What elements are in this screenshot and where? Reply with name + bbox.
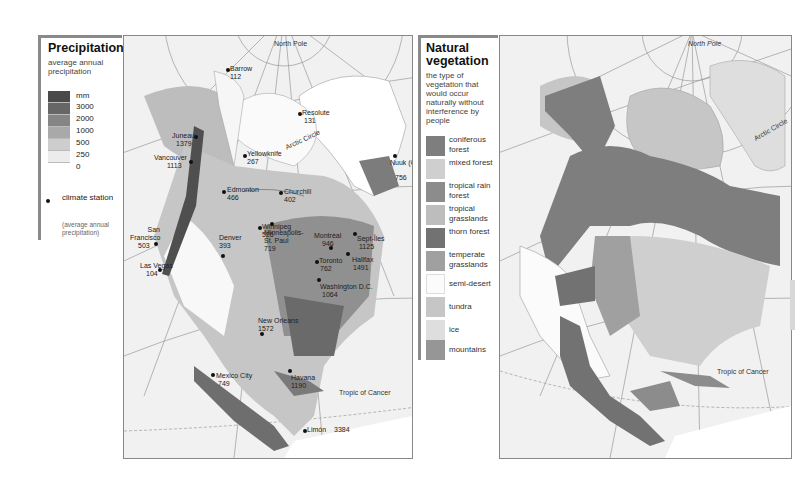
station-marker	[346, 252, 350, 256]
station-name: Sept-Îles	[357, 235, 385, 243]
station-marker	[222, 190, 226, 194]
swatch-250	[48, 139, 70, 151]
station-name: Halifax	[352, 256, 373, 264]
precipitation-scale: mm 3000 2000 1000 500 250 0	[48, 91, 70, 163]
station-name: Havana	[291, 374, 315, 382]
swatch-500	[48, 127, 70, 139]
station-name: Edmonton	[227, 186, 259, 194]
station-name: Minneapolis-St. Paul	[264, 229, 310, 244]
legend-label: semi-desert	[449, 279, 499, 289]
station-marker	[221, 254, 225, 258]
swatch	[426, 205, 445, 225]
swatch	[426, 297, 445, 317]
legend-label: tundra	[449, 302, 499, 312]
precipitation-legend: Precipitation average annual precipitati…	[38, 35, 122, 240]
legend-item-mixed-forest: mixed forest	[426, 158, 498, 180]
legend-item-coniferous-forest: coniferous forest	[426, 135, 498, 157]
station-name: Las Vegas	[140, 262, 173, 270]
station-value: 267	[247, 158, 259, 166]
swatch	[426, 136, 445, 156]
station-value: 1190	[291, 382, 306, 390]
station-value: 1125	[359, 243, 374, 251]
station-value: 1572	[258, 325, 274, 333]
legend-label: temperate grasslands	[449, 250, 499, 269]
station-name: Resolute	[302, 109, 330, 117]
station-marker	[189, 160, 193, 164]
station-name: Limón	[307, 426, 326, 434]
station-name: San Francisco	[130, 226, 160, 241]
station-marker	[279, 191, 283, 195]
station-value: 393	[219, 242, 231, 250]
station-name: Denver	[219, 234, 242, 242]
swatch-0	[48, 151, 70, 163]
station-value: 131	[304, 117, 316, 125]
station-dot-icon	[46, 199, 50, 203]
page-edge-shadow	[790, 280, 795, 330]
station-name: New Orleans	[258, 317, 298, 325]
station-marker	[211, 373, 215, 377]
legend-label: coniferous forest	[449, 135, 499, 154]
precipitation-map: North Pole Arctic Circle Tropic of Cance…	[123, 35, 413, 459]
station-value: 1491	[353, 264, 369, 272]
station-value: 3384	[334, 426, 350, 434]
station-value: 503	[138, 242, 150, 250]
station-name: Barrow	[230, 65, 252, 73]
station-value: 104	[146, 270, 158, 278]
swatch	[426, 251, 445, 271]
legend-item-thorn-forest: thorn forest	[426, 227, 498, 249]
legend-item-ice: ice	[426, 319, 498, 341]
scale-label: 0	[76, 162, 80, 171]
station-marker	[317, 278, 321, 282]
station-marker	[260, 332, 264, 336]
station-name: Washington D.C.	[320, 283, 373, 291]
station-value: 719	[264, 245, 276, 253]
swatch	[426, 340, 445, 360]
swatch	[426, 320, 445, 340]
station-name: Montréal	[314, 232, 341, 240]
station-name: Churchill	[284, 188, 311, 196]
station-value: 466	[227, 194, 239, 202]
precipitation-legend-title: Precipitation	[48, 42, 122, 55]
swatch	[426, 182, 445, 202]
legend-label: mixed forest	[449, 158, 499, 168]
swatch-2000	[48, 103, 70, 115]
swatch	[426, 159, 445, 179]
station-value: 946	[322, 240, 334, 248]
swatch-1000	[48, 115, 70, 127]
station-value: 1064	[322, 291, 338, 299]
station-value: 402	[284, 196, 296, 204]
vegetation-legend-title: Natural vegetation	[426, 42, 498, 68]
swatch	[426, 228, 445, 248]
swatch	[426, 274, 445, 294]
station-value: 112	[230, 73, 241, 81]
station-marker	[154, 242, 158, 246]
station-name: Vancouver	[154, 154, 187, 162]
vegetation-map-graphic	[500, 36, 791, 458]
swatch-3000plus	[48, 91, 70, 103]
station-value: 749	[218, 380, 230, 388]
legend-label: tropical grasslands	[449, 204, 499, 223]
legend-label: thorn forest	[449, 227, 499, 237]
north-pole-label: North Pole	[688, 40, 721, 47]
station-name: Nuuk (Godthåb)	[390, 159, 413, 167]
vegetation-legend: Natural vegetation the type of vegetatio…	[418, 35, 498, 360]
station-value: 756	[395, 174, 407, 182]
vegetation-map: North Pole Arctic Circle Tropic of Cance…	[499, 35, 792, 459]
precipitation-legend-subtitle: average annual precipitation	[48, 58, 122, 76]
legend-item-tropical-rain-forest: tropical rain forest	[426, 181, 498, 203]
legend-border-top	[38, 35, 122, 38]
legend-border-left	[418, 35, 421, 360]
station-marker	[393, 154, 397, 158]
station-label: climate station	[62, 193, 124, 202]
station-marker	[270, 222, 274, 226]
station-name: Mexico City	[216, 372, 252, 380]
tropic-of-cancer-label: Tropic of Cancer	[339, 389, 390, 396]
scale-unit: mm	[76, 91, 89, 100]
legend-border-left	[38, 35, 41, 240]
station-value: 1113	[167, 162, 182, 170]
station-name: Juneau	[172, 132, 195, 140]
scale-label: 3000	[76, 102, 94, 111]
scale-label: 1000	[76, 126, 94, 135]
legend-label: mountains	[449, 345, 499, 355]
scale-label: 2000	[76, 114, 94, 123]
